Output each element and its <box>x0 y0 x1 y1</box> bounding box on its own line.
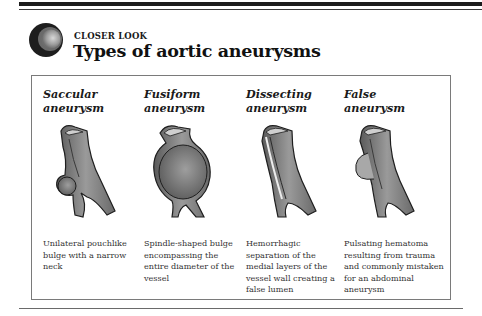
type-heading: Fusiform aneurysm <box>144 88 240 115</box>
closer-look-lens-icon <box>29 22 65 58</box>
type-description: Unilateral pouchlike bulge with a narrow… <box>43 238 143 273</box>
type-heading: Dissecting aneurysm <box>246 88 342 115</box>
aneurysm-type-dissecting: Dissecting aneurysm Hemorrhagic separati… <box>246 88 342 115</box>
section-kicker: CLOSER LOOK <box>74 31 147 41</box>
dissecting-vessel-illustration <box>246 119 336 219</box>
saccular-vessel-illustration <box>43 119 133 219</box>
top-rule-thick <box>19 2 482 6</box>
type-description: Hemorrhagic separation of the medial lay… <box>246 238 346 296</box>
type-heading: False aneurysm <box>344 88 440 115</box>
type-description: Pulsating hematoma resulting from trauma… <box>344 238 444 296</box>
aneurysm-type-saccular: Saccular aneurysm Unilateral pouchlike b… <box>43 88 139 115</box>
page-title: Types of aortic aneurysms <box>73 41 321 61</box>
type-heading: Saccular aneurysm <box>43 88 139 115</box>
aneurysm-type-false: False aneurysm Pulsating hematoma result… <box>344 88 440 115</box>
bottom-rule <box>19 308 463 309</box>
fusiform-vessel-illustration <box>144 119 234 219</box>
type-description: Spindle-shaped bulge encompassing the en… <box>144 238 244 284</box>
aneurysm-types-panel: Saccular aneurysm Unilateral pouchlike b… <box>31 75 451 300</box>
false-vessel-illustration <box>344 119 434 219</box>
aneurysm-type-fusiform: Fusiform aneurysm Spindle-shaped bulge e… <box>144 88 240 115</box>
top-rule-thin <box>19 9 482 10</box>
